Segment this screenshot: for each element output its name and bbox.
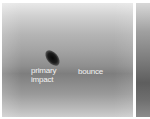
- dark-particle-blob: [43, 48, 63, 69]
- image-panel-right: [136, 3, 150, 117]
- label-bounce: bounce: [78, 68, 103, 76]
- label-primary-impact-line1: primary: [31, 67, 56, 75]
- label-primary-impact-line2: impact: [31, 76, 53, 84]
- image-panel-left: primary impact bounce: [2, 3, 133, 117]
